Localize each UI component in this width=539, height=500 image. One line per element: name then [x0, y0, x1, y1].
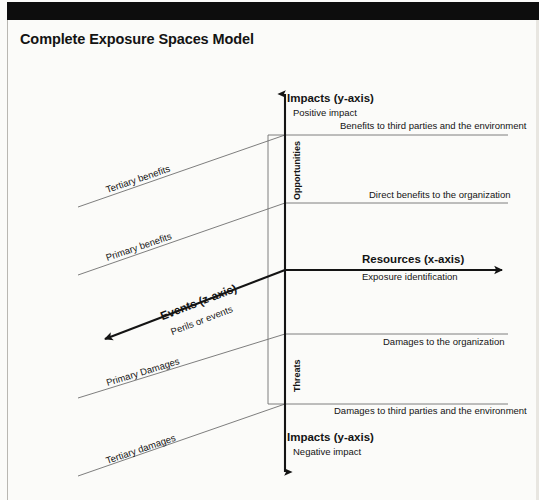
zone-caption-damages-organization: Damages to the organization — [383, 337, 504, 347]
y-axis-bottom-title: Impacts (y-axis) — [287, 431, 374, 443]
region-label-threats: Threats — [292, 359, 302, 392]
diagram-page: Complete Exposure Spaces Model — [0, 0, 539, 500]
region-label-opportunities: Opportunities — [292, 141, 302, 200]
depth-rule-primary-damages — [78, 334, 285, 398]
y-axis-bottom-subtitle: Negative impact — [293, 447, 361, 457]
y-axis-top-title: Impacts (y-axis) — [287, 92, 374, 104]
zone-caption-benefits-third-parties: Benefits to third parties and the enviro… — [340, 121, 526, 131]
x-axis-subtitle: Exposure identification — [362, 272, 458, 282]
depth-rule-tertiary-benefits — [78, 135, 285, 207]
y-axis-top-subtitle: Positive impact — [293, 108, 357, 118]
exposure-spaces-diagram — [0, 0, 539, 500]
zone-caption-direct-benefits: Direct benefits to the organization — [369, 190, 511, 200]
zone-caption-damages-third-parties: Damages to third parties and the environ… — [334, 406, 527, 416]
depth-rule-primary-benefits — [78, 203, 285, 275]
x-axis-title: Resources (x-axis) — [362, 253, 464, 265]
